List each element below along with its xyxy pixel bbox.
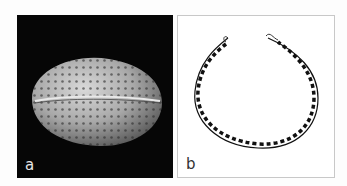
panel-label-a: a: [25, 158, 34, 173]
exine-cross-section-drawing: [178, 16, 336, 179]
panel-label-b: b: [186, 157, 196, 172]
panel-a-sem-image: a: [17, 15, 173, 178]
panel-b-cross-section: b: [177, 15, 335, 178]
pollen-grain-image: [17, 15, 173, 178]
